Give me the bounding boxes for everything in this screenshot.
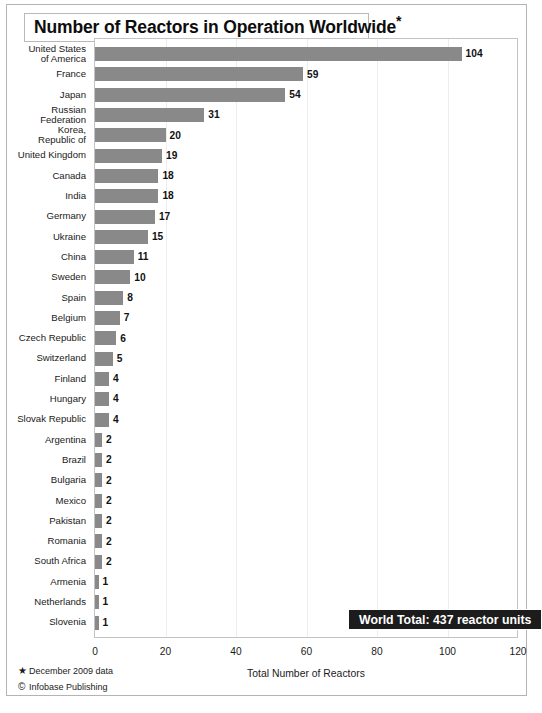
bar — [95, 311, 120, 325]
x-tick-label: 20 — [160, 646, 171, 657]
bar-row: Brazil2 — [7, 450, 528, 470]
bar-value-label: 2 — [106, 535, 112, 549]
x-tick-label: 60 — [301, 646, 312, 657]
bar-row: United Statesof America104 — [7, 44, 528, 64]
bar-row: Finland4 — [7, 369, 528, 389]
bar-value-label: 1 — [103, 616, 109, 630]
bar-value-label: 4 — [113, 413, 119, 427]
bar — [95, 555, 102, 569]
footnote-date-text: December 2009 data — [29, 666, 113, 676]
bar-category-label: Hungary — [7, 389, 86, 409]
bar-row: India18 — [7, 186, 528, 206]
bar-value-label: 104 — [466, 47, 483, 61]
bar-category-label: Netherlands — [7, 592, 86, 612]
footnote-copyright-text: Infobase Publishing — [29, 682, 108, 692]
footnote-date: ★December 2009 data — [18, 663, 113, 679]
bar-row: Armenia1 — [7, 572, 528, 592]
bar-category-label: Slovak Republic — [7, 409, 86, 429]
bar-value-label: 4 — [113, 372, 119, 386]
bar-value-label: 5 — [117, 352, 123, 366]
bar — [95, 413, 109, 427]
bar-value-label: 11 — [138, 250, 149, 264]
bar-value-label: 4 — [113, 392, 119, 406]
bar-category-label: Brazil — [7, 450, 86, 470]
page-title: Number of Reactors in Operation Worldwid… — [34, 17, 401, 38]
bar — [95, 291, 123, 305]
bar-category-label: Japan — [7, 85, 86, 105]
bar — [95, 88, 285, 102]
bar-row: RussianFederation31 — [7, 105, 528, 125]
bar — [95, 372, 109, 386]
bar-value-label: 17 — [159, 210, 170, 224]
footnote-copyright: ©Infobase Publishing — [18, 679, 113, 695]
bar-row: Bulgaria2 — [7, 470, 528, 490]
bar-row: Mexico2 — [7, 491, 528, 511]
bar — [95, 250, 134, 264]
bar-row: Japan54 — [7, 85, 528, 105]
bar-row: Korea,Republic of20 — [7, 125, 528, 145]
bar — [95, 128, 166, 142]
bar-category-label: France — [7, 64, 86, 84]
bar-category-label: Argentina — [7, 430, 86, 450]
bar-value-label: 15 — [152, 230, 163, 244]
bar-row: France59 — [7, 64, 528, 84]
bar-category-label: RussianFederation — [7, 105, 86, 125]
x-tick-label: 120 — [510, 646, 527, 657]
bar-row: Pakistan2 — [7, 511, 528, 531]
bar-value-label: 2 — [106, 474, 112, 488]
title-footnote-marker: * — [396, 13, 401, 29]
bar — [95, 169, 158, 183]
bar — [95, 433, 102, 447]
bar-value-label: 8 — [127, 291, 133, 305]
bar-category-label: Spain — [7, 288, 86, 308]
bar-value-label: 1 — [103, 595, 109, 609]
chart-figure: Number of Reactors in Operation Worldwid… — [6, 4, 527, 696]
x-tick-label: 40 — [230, 646, 241, 657]
bar-category-label: India — [7, 186, 86, 206]
star-icon: ★ — [18, 663, 29, 678]
chart-title-text: Number of Reactors in Operation Worldwid… — [34, 17, 396, 37]
bar-value-label: 7 — [124, 311, 130, 325]
bar — [95, 514, 102, 528]
bar-category-label: Finland — [7, 369, 86, 389]
bar-category-label: Mexico — [7, 491, 86, 511]
bar-row: Romania2 — [7, 531, 528, 551]
bar — [95, 210, 155, 224]
bar-category-label: Armenia — [7, 572, 86, 592]
bar-category-label: Bulgaria — [7, 470, 86, 490]
bar-value-label: 31 — [208, 108, 219, 122]
bar-value-label: 18 — [162, 169, 173, 183]
bar-row: Czech Republic6 — [7, 328, 528, 348]
bar — [95, 575, 99, 589]
bar-category-label: Czech Republic — [7, 328, 86, 348]
bar-category-label: Pakistan — [7, 511, 86, 531]
bar-row: Canada18 — [7, 166, 528, 186]
bar — [95, 352, 113, 366]
bar-category-label: Korea,Republic of — [7, 125, 86, 145]
bar-row: Belgium7 — [7, 308, 528, 328]
bar-rows: United Statesof America104France59Japan5… — [7, 38, 528, 638]
x-tick-label: 0 — [92, 646, 98, 657]
bar-category-label: Germany — [7, 206, 86, 226]
bar-value-label: 6 — [120, 332, 126, 346]
bar-row: China11 — [7, 247, 528, 267]
bar — [95, 534, 102, 548]
x-tick-label: 100 — [439, 646, 456, 657]
bar-value-label: 2 — [106, 494, 112, 508]
x-tick-label: 80 — [371, 646, 382, 657]
footnotes: ★December 2009 data ©Infobase Publishing — [18, 663, 113, 695]
bar-category-label: Slovenia — [7, 612, 86, 632]
bar-row: Slovak Republic4 — [7, 409, 528, 429]
bar — [95, 149, 162, 163]
bar-value-label: 54 — [289, 88, 300, 102]
bar — [95, 331, 116, 345]
bar-value-label: 20 — [170, 129, 181, 143]
bar — [95, 230, 148, 244]
bar — [95, 47, 462, 61]
bar-row: Hungary4 — [7, 389, 528, 409]
world-total-badge: World Total: 437 reactor units — [348, 609, 542, 630]
bar-row: Argentina2 — [7, 430, 528, 450]
bar-row: Ukraine15 — [7, 227, 528, 247]
bar-value-label: 18 — [162, 189, 173, 203]
bar — [95, 270, 130, 284]
